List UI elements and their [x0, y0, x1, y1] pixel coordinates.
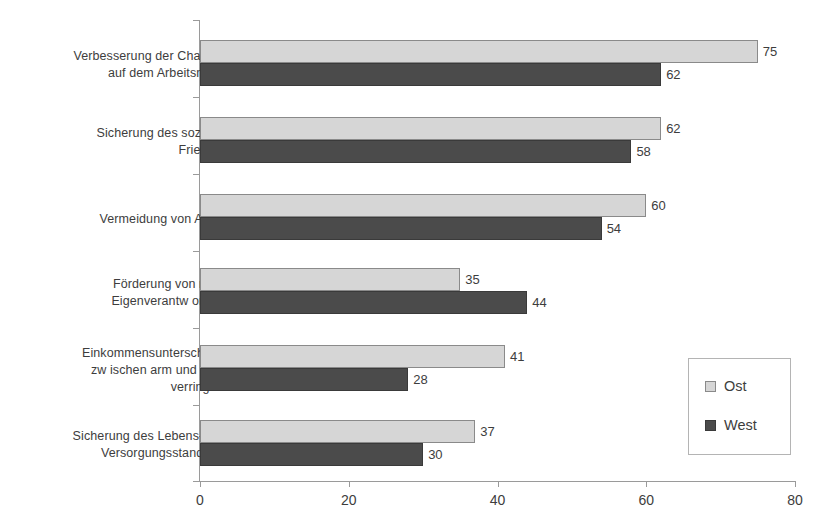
bar-west: [200, 368, 408, 391]
x-axis-tick-label: 80: [787, 492, 803, 508]
y-axis-tick: [193, 405, 199, 406]
x-axis-tick-label: 40: [490, 492, 506, 508]
bar-ost: [200, 268, 460, 291]
x-axis-tick-label: 60: [638, 492, 654, 508]
y-axis-tick: [193, 174, 199, 175]
legend-label-west: West: [724, 417, 757, 433]
legend-swatch-icon-west: [705, 420, 716, 431]
bar-value-label: 30: [423, 443, 442, 466]
x-axis-tick-label: 20: [341, 492, 357, 508]
bar-value-label: 28: [408, 368, 427, 391]
chart-legend: Ost West: [688, 358, 791, 455]
bar-value-label: 62: [661, 63, 680, 86]
bar-ost: [200, 420, 475, 443]
x-axis-tick: [200, 481, 201, 487]
bar-value-label: 35: [460, 268, 479, 291]
y-axis-line: [199, 20, 200, 482]
legend-swatch-icon-ost: [705, 381, 716, 392]
bar-west: [200, 291, 527, 314]
bar-ost: [200, 117, 661, 140]
bar-west: [200, 443, 423, 466]
bar-west: [200, 140, 631, 163]
bar-ost: [200, 40, 758, 63]
y-axis-tick: [193, 328, 199, 329]
bar-value-label: 75: [758, 40, 777, 63]
bar-value-label: 62: [661, 117, 680, 140]
y-axis-tick: [193, 97, 199, 98]
bar-west: [200, 63, 661, 86]
x-axis-tick-label: 0: [196, 492, 204, 508]
bar-value-label: 58: [631, 140, 650, 163]
legend-item-west: West: [705, 417, 757, 433]
bar-value-label: 60: [646, 194, 665, 217]
bar-ost: [200, 345, 505, 368]
y-axis-tick: [193, 251, 199, 252]
bar-west: [200, 217, 602, 240]
x-axis-tick: [795, 481, 796, 487]
bar-value-label: 54: [602, 217, 621, 240]
bar-value-label: 41: [505, 345, 524, 368]
y-axis-tick: [193, 20, 199, 21]
bar-chart: Verbesserung der Chancenauf dem Arbeitsm…: [0, 0, 824, 529]
y-axis-tick: [193, 481, 199, 482]
x-axis-tick: [349, 481, 350, 487]
bar-value-label: 44: [527, 291, 546, 314]
bar-ost: [200, 194, 646, 217]
x-axis-tick: [646, 481, 647, 487]
legend-label-ost: Ost: [724, 378, 747, 394]
x-axis-tick: [498, 481, 499, 487]
bar-value-label: 37: [475, 420, 494, 443]
legend-item-ost: Ost: [705, 378, 747, 394]
